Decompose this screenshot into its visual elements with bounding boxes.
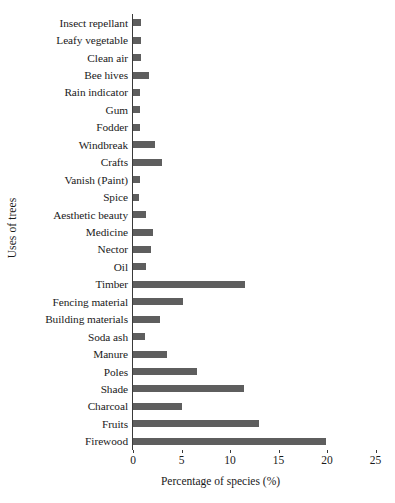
bar — [133, 106, 140, 113]
x-tick-mark — [279, 450, 280, 453]
bar — [133, 281, 245, 288]
x-axis: 0510152025 — [133, 450, 383, 472]
x-tick-label: 5 — [179, 454, 185, 466]
bar — [133, 141, 155, 148]
bar — [133, 54, 141, 61]
category-label: Manure — [24, 348, 128, 360]
category-label: Oil — [24, 261, 128, 273]
category-label: Fruits — [24, 418, 128, 430]
x-tick-label: 10 — [224, 454, 236, 466]
x-tick-mark — [182, 450, 183, 453]
category-label: Leafy vegetable — [24, 34, 128, 46]
x-tick-mark — [133, 450, 134, 453]
category-label: Fodder — [24, 121, 128, 133]
y-axis-title: Uses of trees — [0, 0, 24, 455]
category-label: Fencing material — [24, 296, 128, 308]
bar — [133, 385, 244, 392]
category-label: Crafts — [24, 156, 128, 168]
bar — [133, 438, 326, 445]
x-tick-mark — [327, 450, 328, 453]
x-tick-label: 15 — [273, 454, 285, 466]
category-label: Bee hives — [24, 69, 128, 81]
x-axis-title: Percentage of species (%) — [0, 475, 395, 487]
category-label: Medicine — [24, 226, 128, 238]
category-label: Rain indicator — [24, 86, 128, 98]
category-label: Aesthetic beauty — [24, 209, 128, 221]
category-label: Poles — [24, 366, 128, 378]
category-label: Firewood — [24, 435, 128, 447]
category-label: Clean air — [24, 52, 128, 64]
bar — [133, 176, 140, 183]
bar — [133, 159, 162, 166]
x-tick-label: 20 — [321, 454, 333, 466]
x-tick-label: 0 — [130, 454, 136, 466]
bar — [133, 246, 151, 253]
bar — [133, 316, 160, 323]
bar — [133, 72, 149, 79]
y-axis-title-text: Uses of trees — [6, 197, 18, 258]
category-label: Timber — [24, 278, 128, 290]
bar — [133, 368, 197, 375]
x-tick-label: 25 — [370, 454, 382, 466]
bar — [133, 37, 141, 44]
bar — [133, 351, 167, 358]
plot-area — [133, 14, 383, 450]
bar — [133, 229, 153, 236]
category-label: Vanish (Paint) — [24, 174, 128, 186]
category-label: Gum — [24, 104, 128, 116]
category-label: Charcoal — [24, 400, 128, 412]
bar — [133, 89, 140, 96]
category-label: Spice — [24, 191, 128, 203]
x-axis-title-text: Percentage of species (%) — [115, 475, 280, 487]
bar — [133, 194, 139, 201]
category-label: Shade — [24, 383, 128, 395]
category-label: Nector — [24, 243, 128, 255]
bar — [133, 263, 146, 270]
bar — [133, 124, 140, 131]
bar — [133, 211, 146, 218]
category-label: Soda ash — [24, 331, 128, 343]
category-label: Windbreak — [24, 139, 128, 151]
bar — [133, 333, 145, 340]
category-label: Insect repellant — [24, 17, 128, 29]
bar — [133, 19, 141, 26]
bar-chart: Uses of trees Insect repellantLeafy vege… — [0, 0, 395, 503]
category-label: Building materials — [24, 313, 128, 325]
category-axis-labels: Insect repellantLeafy vegetableClean air… — [24, 14, 128, 450]
bar — [133, 420, 259, 427]
bar — [133, 298, 183, 305]
x-tick-mark — [230, 450, 231, 453]
x-tick-mark — [376, 450, 377, 453]
bar — [133, 403, 182, 410]
